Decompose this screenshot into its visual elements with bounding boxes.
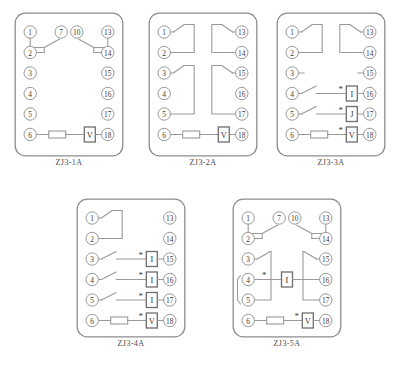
terminal-2: 2 — [158, 46, 170, 58]
terminal-18: 18 — [236, 128, 248, 140]
terminal-17: 17 — [236, 108, 248, 120]
svg-text:15: 15 — [322, 255, 330, 264]
terminal-17: 17 — [164, 294, 176, 306]
terminal-2: 2 — [86, 232, 98, 244]
terminal-4: 4 — [286, 87, 298, 99]
svg-text:2: 2 — [290, 49, 294, 58]
terminal-17: 17 — [364, 108, 376, 120]
svg-text:15: 15 — [104, 69, 112, 78]
svg-text:16: 16 — [366, 90, 374, 99]
diagram-caption-zj3-5a: ZJ3-5A — [232, 339, 342, 348]
terminal-16: 16 — [236, 87, 248, 99]
terminal-6: 6 — [242, 314, 254, 326]
terminal-4: 4 — [242, 273, 254, 285]
coil-box-voltage-zj3-5a: V — [302, 313, 313, 328]
svg-text:18: 18 — [322, 317, 330, 326]
terminal-1: 1 — [242, 212, 254, 224]
svg-text:3: 3 — [90, 255, 94, 264]
terminal-15: 15 — [320, 253, 332, 265]
coil-row-resistor — [111, 317, 128, 324]
terminal-13: 13 — [364, 26, 376, 38]
svg-text:V: V — [87, 131, 93, 140]
relay-diagram-zj3-3a: *I*J*V123456131415161718ZJ3-3A — [276, 12, 386, 167]
svg-text:16: 16 — [322, 276, 330, 285]
svg-text:18: 18 — [104, 131, 112, 140]
relay-diagram-zj3-5a: *I*V123456131415161718710ZJ3-5A — [232, 198, 342, 348]
svg-text:I: I — [150, 296, 153, 305]
relay-schematic-zj3-4a: *I*I*I*V123456131415161718 — [76, 198, 186, 338]
svg-text:I: I — [286, 276, 289, 285]
terminal-16: 16 — [164, 273, 176, 285]
terminal-5: 5 — [24, 108, 36, 120]
terminal-6: 6 — [86, 314, 98, 326]
terminal-13: 13 — [236, 26, 248, 38]
svg-text:15: 15 — [166, 255, 174, 264]
row-zj3-4a-0-polarity: * — [139, 250, 144, 260]
terminal-1: 1 — [86, 212, 98, 224]
coil-box-center-zj3-5a: I — [282, 272, 293, 287]
svg-text:13: 13 — [322, 214, 330, 223]
relay-schematic-zj3-5a: *I*V123456131415161718710 — [232, 198, 342, 338]
terminal-1: 1 — [24, 26, 36, 38]
terminal-6: 6 — [158, 128, 170, 140]
coil-box-i-zj3-3a-0: I — [346, 86, 357, 101]
svg-text:17: 17 — [104, 110, 112, 119]
terminal-14: 14 — [102, 46, 114, 58]
svg-text:2: 2 — [162, 49, 166, 58]
svg-text:6: 6 — [246, 317, 250, 326]
svg-text:I: I — [150, 276, 153, 285]
terminal-16: 16 — [102, 87, 114, 99]
svg-text:6: 6 — [290, 131, 294, 140]
svg-text:3: 3 — [290, 69, 294, 78]
terminal-4: 4 — [24, 87, 36, 99]
diagram-sheet: V123456131415161718710ZJ3-1AV12345613141… — [0, 0, 393, 368]
terminal-14: 14 — [320, 232, 332, 244]
coil-row-resistor — [311, 131, 328, 138]
diagram-caption-zj3-2a: ZJ3-2A — [148, 158, 258, 167]
terminal-2: 2 — [286, 46, 298, 58]
svg-text:I: I — [350, 90, 353, 99]
coil-row-polarity: * — [295, 311, 300, 321]
svg-text:V: V — [349, 131, 355, 140]
svg-text:1: 1 — [246, 214, 250, 223]
coil-row-resistor — [183, 131, 200, 138]
terminal-3: 3 — [242, 253, 254, 265]
terminal-4: 4 — [158, 87, 170, 99]
svg-text:13: 13 — [166, 214, 174, 223]
svg-text:2: 2 — [28, 49, 32, 58]
terminal-3: 3 — [286, 67, 298, 79]
terminal-1: 1 — [286, 26, 298, 38]
svg-text:6: 6 — [28, 131, 32, 140]
terminal-7: 7 — [273, 212, 285, 224]
terminal-18: 18 — [102, 128, 114, 140]
svg-text:17: 17 — [322, 296, 330, 305]
terminal-15: 15 — [236, 67, 248, 79]
terminal-6: 6 — [286, 128, 298, 140]
svg-text:10: 10 — [291, 214, 299, 223]
svg-text:13: 13 — [366, 28, 374, 37]
svg-text:2: 2 — [246, 235, 250, 244]
svg-text:V: V — [221, 131, 227, 140]
terminal-3: 3 — [86, 253, 98, 265]
svg-text:17: 17 — [366, 110, 374, 119]
row-zj3-4a-1-polarity: * — [139, 270, 144, 280]
coil-row-polarity: * — [139, 311, 144, 321]
terminal-15: 15 — [364, 67, 376, 79]
coil-box-i-zj3-4a-2: I — [146, 293, 157, 308]
svg-text:V: V — [305, 317, 311, 326]
terminal-17: 17 — [102, 108, 114, 120]
svg-text:16: 16 — [238, 90, 246, 99]
terminal-5: 5 — [158, 108, 170, 120]
terminal-14: 14 — [236, 46, 248, 58]
terminal-5: 5 — [286, 108, 298, 120]
svg-text:1: 1 — [290, 28, 294, 37]
svg-text:13: 13 — [104, 28, 112, 37]
svg-text:18: 18 — [238, 131, 246, 140]
svg-text:15: 15 — [366, 69, 374, 78]
svg-text:6: 6 — [162, 131, 166, 140]
diagram-caption-zj3-3a: ZJ3-3A — [276, 158, 386, 167]
coil-box-i-zj3-4a-0: I — [146, 252, 157, 267]
terminal-2: 2 — [242, 232, 254, 244]
svg-text:14: 14 — [104, 49, 112, 58]
terminal-13: 13 — [164, 212, 176, 224]
